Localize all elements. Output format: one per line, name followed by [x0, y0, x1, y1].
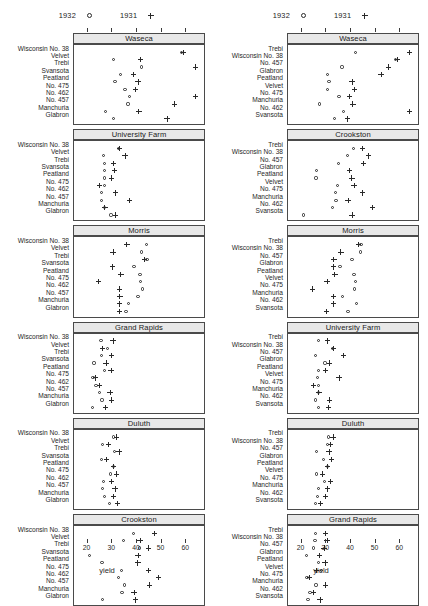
variety-row[interactable] [74, 152, 206, 159]
variety-row[interactable] [74, 345, 206, 352]
variety-row[interactable] [74, 182, 206, 189]
variety-row[interactable] [74, 86, 206, 93]
variety-row[interactable] [74, 108, 206, 115]
variety-row[interactable] [74, 174, 206, 181]
variety-row[interactable] [74, 463, 206, 470]
variety-row[interactable] [288, 345, 420, 352]
variety-row[interactable] [288, 493, 420, 500]
variety-row[interactable] [288, 115, 420, 122]
variety-row[interactable] [74, 241, 206, 248]
variety-row[interactable] [74, 389, 206, 396]
variety-row[interactable] [288, 211, 420, 218]
variety-row[interactable] [288, 241, 420, 248]
variety-row[interactable] [74, 167, 206, 174]
variety-row[interactable] [74, 300, 206, 307]
variety-row[interactable] [288, 456, 420, 463]
variety-row[interactable] [288, 93, 420, 100]
variety-row[interactable] [74, 308, 206, 315]
variety-row[interactable] [288, 574, 420, 581]
variety-row[interactable] [288, 174, 420, 181]
variety-row[interactable] [288, 182, 420, 189]
variety-row[interactable] [74, 271, 206, 278]
variety-row[interactable] [74, 359, 206, 366]
variety-row[interactable] [74, 374, 206, 381]
variety-row[interactable] [74, 278, 206, 285]
variety-row[interactable] [288, 256, 420, 263]
variety-row[interactable] [74, 500, 206, 507]
variety-row[interactable] [288, 248, 420, 255]
variety-row[interactable] [74, 382, 206, 389]
variety-row[interactable] [288, 263, 420, 270]
variety-row[interactable] [74, 100, 206, 107]
variety-row[interactable] [74, 352, 206, 359]
variety-row[interactable] [74, 456, 206, 463]
variety-row[interactable] [74, 530, 206, 537]
variety-row[interactable] [288, 160, 420, 167]
variety-row[interactable] [288, 278, 420, 285]
variety-row[interactable] [74, 78, 206, 85]
variety-row[interactable] [288, 478, 420, 485]
variety-row[interactable] [288, 530, 420, 537]
variety-row[interactable] [288, 285, 420, 292]
variety-row[interactable] [288, 374, 420, 381]
variety-row[interactable] [288, 271, 420, 278]
variety-row[interactable] [288, 500, 420, 507]
variety-row[interactable] [74, 248, 206, 255]
variety-row[interactable] [288, 78, 420, 85]
variety-row[interactable] [288, 382, 420, 389]
variety-row[interactable] [74, 115, 206, 122]
variety-row[interactable] [288, 596, 420, 603]
variety-row[interactable] [288, 470, 420, 477]
variety-row[interactable] [74, 197, 206, 204]
variety-row[interactable] [74, 293, 206, 300]
variety-row[interactable] [288, 404, 420, 411]
variety-row[interactable] [288, 108, 420, 115]
variety-row[interactable] [288, 463, 420, 470]
variety-row[interactable] [288, 359, 420, 366]
variety-row[interactable] [74, 574, 206, 581]
variety-row[interactable] [74, 470, 206, 477]
variety-row[interactable] [74, 211, 206, 218]
variety-row[interactable] [74, 589, 206, 596]
variety-row[interactable] [74, 71, 206, 78]
variety-row[interactable] [288, 448, 420, 455]
variety-row[interactable] [74, 256, 206, 263]
variety-row[interactable] [74, 204, 206, 211]
variety-row[interactable] [74, 581, 206, 588]
variety-row[interactable] [74, 263, 206, 270]
variety-row[interactable] [74, 433, 206, 440]
variety-row[interactable] [74, 285, 206, 292]
variety-row[interactable] [288, 167, 420, 174]
variety-row[interactable] [288, 300, 420, 307]
variety-row[interactable] [74, 367, 206, 374]
variety-row[interactable] [288, 485, 420, 492]
variety-row[interactable] [74, 56, 206, 63]
variety-row[interactable] [74, 441, 206, 448]
variety-row[interactable] [288, 441, 420, 448]
variety-row[interactable] [288, 367, 420, 374]
variety-row[interactable] [288, 56, 420, 63]
variety-row[interactable] [74, 404, 206, 411]
variety-row[interactable] [288, 71, 420, 78]
variety-row[interactable] [288, 308, 420, 315]
variety-row[interactable] [74, 145, 206, 152]
variety-row[interactable] [288, 86, 420, 93]
variety-row[interactable] [74, 63, 206, 70]
variety-row[interactable] [288, 197, 420, 204]
variety-row[interactable] [74, 337, 206, 344]
variety-row[interactable] [288, 204, 420, 211]
variety-row[interactable] [74, 493, 206, 500]
variety-row[interactable] [288, 352, 420, 359]
variety-row[interactable] [288, 337, 420, 344]
variety-row[interactable] [288, 396, 420, 403]
variety-row[interactable] [288, 145, 420, 152]
variety-row[interactable] [74, 478, 206, 485]
variety-row[interactable] [288, 49, 420, 56]
variety-row[interactable] [288, 589, 420, 596]
variety-row[interactable] [74, 596, 206, 603]
variety-row[interactable] [288, 293, 420, 300]
variety-row[interactable] [288, 152, 420, 159]
variety-row[interactable] [288, 63, 420, 70]
variety-row[interactable] [74, 93, 206, 100]
variety-row[interactable] [74, 49, 206, 56]
